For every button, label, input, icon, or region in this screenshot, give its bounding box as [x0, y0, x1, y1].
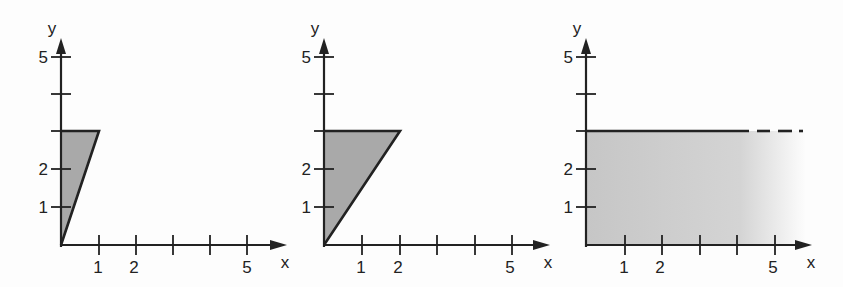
panel-b: y x 5 2 1 1 2 5	[302, 19, 553, 277]
x-tick-label-2: 2	[393, 258, 402, 277]
y-tick-label-5: 5	[302, 48, 311, 67]
panel-c: y x 5 2 1 1 2 5	[564, 19, 816, 277]
x-tick-label-5: 5	[505, 258, 514, 277]
y-tick-label-2: 2	[39, 160, 48, 179]
y-tick-label-5: 5	[564, 48, 573, 67]
x-tick-label-1: 1	[356, 258, 365, 277]
shaded-strip-region	[586, 131, 806, 245]
x-tick-label-1: 1	[93, 258, 102, 277]
y-axis-arrow-icon	[56, 38, 66, 54]
x-tick-label-2: 2	[655, 258, 664, 277]
x-axis-label: x	[807, 253, 816, 272]
x-tick-label-5: 5	[242, 258, 251, 277]
y-tick-label-1: 1	[302, 198, 311, 217]
x-axis-label: x	[281, 253, 290, 272]
panel-a: y x 5 2 1 1 2 5	[39, 19, 290, 277]
x-tick-label-1: 1	[619, 258, 628, 277]
y-axis-arrow-icon	[319, 38, 329, 54]
y-tick-label-2: 2	[302, 160, 311, 179]
y-axis-label: y	[311, 19, 320, 38]
figure-canvas: y x 5 2 1 1 2 5 y x 5 2	[0, 0, 843, 287]
y-tick-label-1: 1	[39, 198, 48, 217]
x-tick-label-5: 5	[768, 258, 777, 277]
x-tick-label-2: 2	[129, 258, 138, 277]
x-axis-arrow-icon	[533, 240, 550, 250]
x-axis-label: x	[544, 253, 553, 272]
y-tick-label-5: 5	[39, 48, 48, 67]
y-tick-label-2: 2	[564, 160, 573, 179]
x-axis-arrow-icon	[270, 240, 287, 250]
y-axis-label: y	[48, 19, 57, 38]
y-tick-label-1: 1	[564, 198, 573, 217]
y-axis-label: y	[573, 19, 582, 38]
y-axis-arrow-icon	[581, 38, 591, 54]
